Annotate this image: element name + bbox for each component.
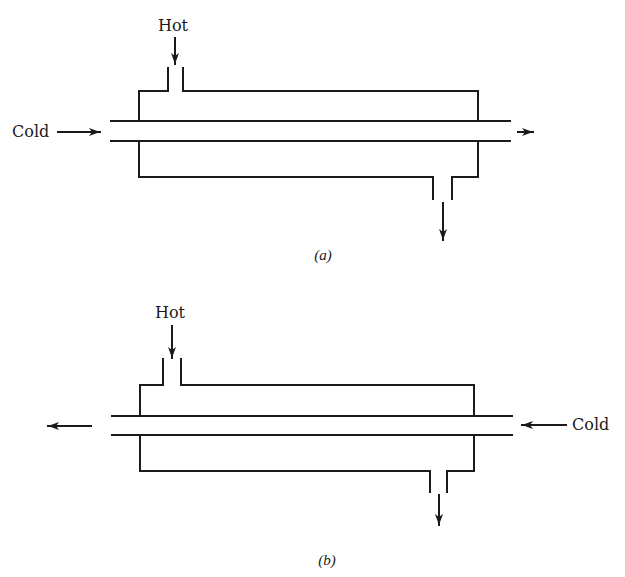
panel-a-parallel-flow: Hot Cold (a) — [12, 16, 533, 264]
panel-a-caption: (a) — [314, 247, 332, 264]
panel-b-hot-label: Hot — [155, 303, 186, 322]
panel-b-shell-top-left — [140, 359, 163, 416]
panel-b-shell-bottom-left — [140, 435, 430, 492]
panel-a-shell-top-left — [139, 68, 168, 121]
panel-a-shell-bottom-left — [139, 141, 433, 199]
panel-a-shell-top — [183, 68, 478, 121]
panel-b-counterflow: Hot Cold (b) — [48, 303, 609, 569]
panel-a-shell-bottom-right — [452, 141, 478, 199]
panel-b-cold-label: Cold — [572, 415, 609, 434]
panel-b-shell-bottom-right — [447, 435, 474, 492]
panel-b-caption: (b) — [318, 552, 336, 569]
heat-exchanger-diagram: Hot Cold (a) Hot Cold (b) — [0, 0, 625, 577]
panel-a-hot-label: Hot — [158, 16, 189, 35]
panel-a-cold-label: Cold — [12, 122, 49, 141]
panel-b-shell-top — [181, 359, 474, 416]
